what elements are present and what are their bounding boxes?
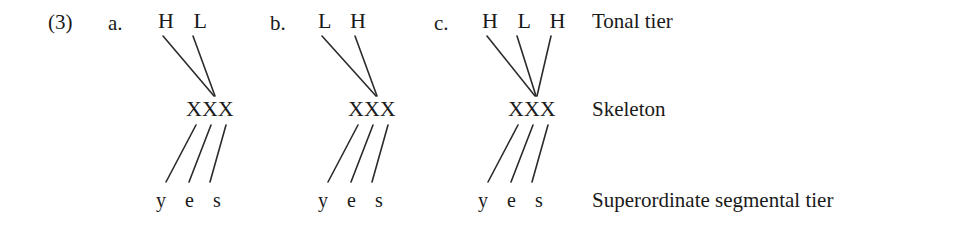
group-a-tone-links — [163, 36, 215, 96]
group-letter-a: a. — [108, 13, 123, 34]
tier-label-tonal: Tonal tier — [592, 11, 673, 32]
assoc-line-c-H2-to-skeleton — [537, 36, 551, 96]
group-b-segment-links — [328, 125, 388, 182]
tier-label-segmental: Superordinate segmental tier — [592, 190, 833, 211]
example-number: (3) — [48, 12, 73, 33]
assoc-line-b-X2-to-e — [351, 125, 373, 182]
assoc-line-b-X3-to-s — [372, 125, 388, 182]
tonal-tier-b: L H — [318, 10, 373, 32]
skeleton-tier-b: XXX — [348, 98, 396, 120]
group-c-segment-links — [488, 125, 548, 182]
segmental-tier-c: y e s — [478, 190, 550, 210]
skeleton-tier-c: XXX — [508, 98, 556, 120]
group-letter-c: c. — [434, 13, 449, 34]
assoc-line-a-L-to-skeleton — [193, 36, 215, 96]
assoc-line-b-L-to-skeleton — [322, 36, 376, 96]
group-a-segment-links — [166, 125, 226, 182]
assoc-line-a-H-to-skeleton — [163, 36, 214, 96]
autosegmental-diagram: (3) a. H L XXX y e s b. L H XXX y e s c.… — [0, 0, 960, 234]
assoc-line-a-X3-to-s — [210, 125, 226, 182]
assoc-line-c-L-to-skeleton — [517, 36, 536, 96]
assoc-line-b-X1-to-y — [328, 125, 358, 182]
group-c-tone-links — [487, 36, 551, 96]
assoc-line-c-X1-to-y — [488, 125, 518, 182]
assoc-line-c-X2-to-e — [511, 125, 533, 182]
segmental-tier-b: y e s — [318, 190, 390, 210]
group-b-tone-links — [322, 36, 377, 96]
group-letter-b: b. — [270, 13, 286, 34]
assoc-line-a-X1-to-y — [166, 125, 196, 182]
assoc-line-b-H-to-skeleton — [355, 36, 377, 96]
assoc-line-c-X3-to-s — [532, 125, 548, 182]
assoc-line-a-X2-to-e — [189, 125, 211, 182]
tier-label-skeleton: Skeleton — [592, 99, 666, 120]
segmental-tier-a: y e s — [156, 190, 228, 210]
tonal-tier-a: H L — [158, 10, 214, 32]
assoc-line-c-H1-to-skeleton — [487, 36, 535, 96]
skeleton-tier-a: XXX — [186, 98, 234, 120]
tonal-tier-c: H L H — [482, 10, 572, 32]
